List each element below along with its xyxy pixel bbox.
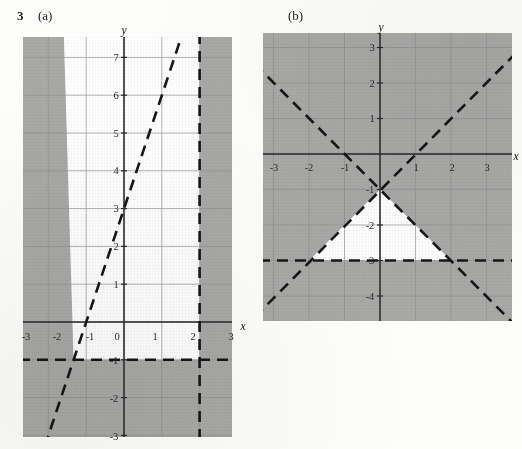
graph-b-xtick-2: 2 [449,162,454,173]
graph-a-ytick-6: 6 [113,90,118,101]
graph-a-y-axis-label: y [121,24,126,36]
graph-b-ytick-3: 3 [369,42,374,53]
graph-a-ytick--1: -1 [110,355,119,366]
graph-b-line-falling [263,64,512,321]
graph-b-xtick-3: 3 [484,162,489,173]
graph-a-ytick-4: 4 [113,165,118,176]
graph-a-ytick-3: 3 [113,203,118,214]
question-number: 3 [17,8,24,24]
graph-b-ytick-1: 1 [369,113,374,124]
graph-a-xtick--3: -3 [22,331,31,342]
graph-b-boundary-lines [263,33,512,321]
graph-b-ytick--4: -4 [366,291,375,302]
graph-b-xtick-1: 1 [413,162,418,173]
graph-b-xtick--3: -3 [270,162,279,173]
graph-b-ytick--2: -2 [366,220,375,231]
figure-page: 3 (a) (b) [0,0,522,449]
graph-a-xtick--1: -1 [86,331,95,342]
subfigure-label-a: (a) [38,8,52,24]
graph-b-ytick--3: -3 [366,255,375,266]
graph-a-xtick-3: 3 [228,331,233,342]
graph-a-ytick-1: 1 [113,279,118,290]
graph-b-xtick--2: -2 [305,162,314,173]
graph-b-y-axis-label: y [378,21,383,33]
graph-a-ytick--3: -3 [110,431,119,442]
graph-b-ytick-2: 2 [369,78,374,89]
graph-a-panel [23,37,232,437]
graph-b-line-rising [263,54,512,317]
graph-b-x-axis-label: x [513,150,518,162]
graph-a-xtick-1: 1 [152,331,157,342]
graph-a-ytick-5: 5 [113,128,118,139]
graph-b-ytick--1: -1 [366,184,375,195]
graph-b-xtick--1: -1 [341,162,350,173]
graph-a-xtick--2: -2 [53,331,62,342]
graph-a-ytick-7: 7 [113,52,118,63]
graph-b-panel [263,33,512,321]
graph-a-ytick--2: -2 [110,393,119,404]
graph-a-boundary-lines [23,37,232,437]
graph-a-ytick-2: 2 [113,241,118,252]
graph-a-xtick-0: 0 [114,331,119,342]
graph-a-line-slanted [23,37,188,437]
subfigure-label-b: (b) [288,8,303,24]
graph-a-xtick-2: 2 [190,331,195,342]
graph-a-x-axis-label: x [240,320,245,332]
